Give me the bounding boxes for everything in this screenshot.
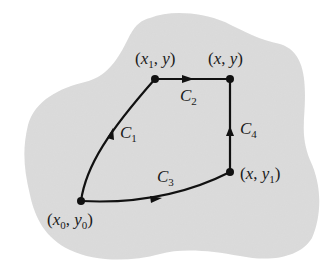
curve-letter: C bbox=[157, 167, 168, 186]
label-curve-c2: C2 bbox=[180, 87, 197, 104]
diagram-svg bbox=[0, 0, 330, 273]
point-x-y bbox=[226, 75, 234, 83]
subscript: 1 bbox=[269, 173, 275, 185]
var: x bbox=[246, 164, 254, 183]
subscript: 3 bbox=[168, 176, 174, 188]
point-x-y1 bbox=[226, 168, 234, 176]
label-point-x-y1: (x, y1) bbox=[240, 165, 280, 182]
subscript: 1 bbox=[131, 132, 137, 144]
subscript: 1 bbox=[148, 58, 154, 70]
label-point-x-y: (x, y) bbox=[208, 50, 243, 67]
var: x bbox=[214, 49, 222, 68]
curve-letter: C bbox=[120, 123, 131, 142]
label-curve-c3: C3 bbox=[157, 168, 174, 185]
point-x0-y0 bbox=[77, 197, 85, 205]
curve-letter: C bbox=[180, 86, 191, 105]
label-point-x0-y0: (x0, y0) bbox=[47, 211, 93, 228]
curve-letter: C bbox=[240, 119, 251, 138]
subscript: 2 bbox=[191, 95, 197, 107]
point-x1-y bbox=[151, 75, 159, 83]
label-curve-c4: C4 bbox=[240, 120, 257, 137]
subscript: 0 bbox=[60, 219, 66, 231]
var: y bbox=[230, 49, 238, 68]
subscript: 4 bbox=[251, 128, 257, 140]
label-point-x1-y: (x1, y) bbox=[135, 50, 175, 67]
var: y bbox=[74, 210, 82, 229]
diagram-canvas: (x1, y) (x, y) (x, y1) (x0, y0) C1 C2 C3… bbox=[0, 0, 330, 273]
var: y bbox=[162, 49, 170, 68]
label-curve-c1: C1 bbox=[120, 124, 137, 141]
subscript: 0 bbox=[82, 219, 88, 231]
